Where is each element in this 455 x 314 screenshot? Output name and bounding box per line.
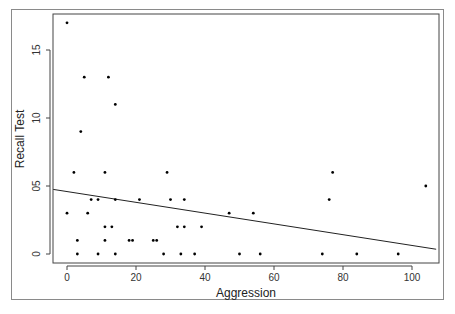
- data-point: [110, 225, 113, 228]
- plot-area-box: [53, 14, 439, 263]
- data-point: [169, 198, 172, 201]
- x-axis: 020406080100: [64, 266, 421, 283]
- data-point: [97, 253, 100, 256]
- regression-line: [53, 189, 436, 249]
- y-tick-label: 15: [31, 44, 42, 56]
- data-point: [162, 253, 165, 256]
- data-point: [114, 198, 117, 201]
- data-point: [76, 239, 79, 242]
- data-point: [183, 225, 186, 228]
- data-point: [138, 198, 141, 201]
- data-point: [66, 212, 69, 215]
- data-point: [86, 212, 89, 215]
- data-point: [73, 171, 76, 174]
- data-point: [155, 239, 158, 242]
- x-tick-label: 80: [337, 272, 349, 283]
- x-tick-label: 0: [64, 272, 70, 283]
- data-point: [107, 76, 110, 79]
- data-point: [90, 198, 93, 201]
- y-tick-label: 10: [31, 112, 42, 124]
- data-point: [193, 253, 196, 256]
- data-point: [328, 198, 331, 201]
- data-point: [79, 130, 82, 133]
- x-tick-label: 60: [268, 272, 280, 283]
- data-point: [252, 212, 255, 215]
- data-point: [128, 239, 131, 242]
- data-point: [259, 253, 262, 256]
- data-point: [66, 21, 69, 24]
- data-point: [179, 253, 182, 256]
- data-point: [424, 185, 427, 188]
- data-point: [83, 76, 86, 79]
- data-point: [321, 253, 324, 256]
- data-points: [66, 21, 428, 255]
- y-axis: 0051015: [31, 44, 50, 257]
- data-point: [152, 239, 155, 242]
- x-axis-title: Aggression: [216, 286, 276, 300]
- data-point: [397, 253, 400, 256]
- scatter-plot: 020406080100 0051015 Aggression Recall T…: [0, 0, 455, 314]
- y-axis-title: Recall Test: [13, 109, 27, 168]
- x-tick-label: 20: [130, 272, 142, 283]
- data-point: [166, 171, 169, 174]
- data-point: [176, 225, 179, 228]
- data-point: [104, 225, 107, 228]
- data-point: [200, 225, 203, 228]
- y-tick-label: 0: [31, 251, 42, 257]
- data-point: [331, 171, 334, 174]
- data-point: [355, 253, 358, 256]
- data-point: [104, 171, 107, 174]
- data-point: [97, 198, 100, 201]
- data-point: [76, 253, 79, 256]
- data-point: [228, 212, 231, 215]
- data-point: [114, 253, 117, 256]
- data-point: [131, 239, 134, 242]
- x-tick-label: 100: [404, 272, 421, 283]
- data-point: [183, 198, 186, 201]
- data-point: [114, 103, 117, 106]
- data-point: [238, 253, 241, 256]
- data-point: [104, 239, 107, 242]
- x-tick-label: 40: [199, 272, 211, 283]
- y-tick-label: 05: [31, 180, 42, 192]
